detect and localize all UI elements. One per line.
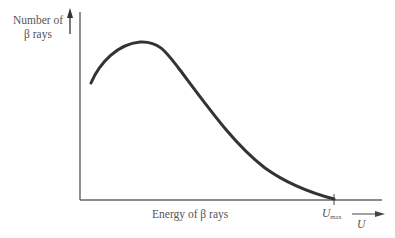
u-arrow-label: U [357, 218, 365, 230]
umax-subscript: max [330, 213, 341, 220]
beta-spectrum-curve [91, 42, 334, 199]
y-axis-label: Number of β rays [10, 13, 66, 41]
y-axis-label-line2: β rays [10, 27, 66, 41]
umax-label: Umax [322, 207, 342, 220]
y-axis-label-line1: Number of [10, 13, 66, 27]
x-axis-label: Energy of β rays [152, 208, 228, 220]
y-arrow-head-icon [67, 8, 73, 18]
x-arrow-head-icon [375, 211, 385, 217]
